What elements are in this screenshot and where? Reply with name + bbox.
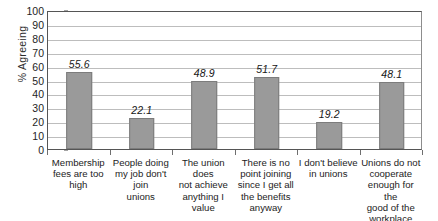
x-axis-tick-mark [360, 150, 361, 155]
x-axis-category-label: Membershipfees are toohigh [47, 157, 110, 191]
bar-chart-figure: % Agreeing 1009080706050403020100 55.622… [0, 0, 438, 221]
y-axis-tick-label: 60 [32, 61, 44, 72]
bar-slot: 48.9 [173, 12, 236, 149]
category-label-line: anyway [236, 202, 297, 213]
category-label-line: not achieve [173, 179, 234, 190]
y-axis-tick-label: 20 [32, 117, 44, 128]
bar [66, 72, 92, 149]
x-axis-category-label: Unions do notcooperateenough for thegood… [360, 157, 423, 221]
y-axis-tick-label: 80 [32, 34, 44, 45]
category-label-line: in unions [298, 168, 359, 179]
bar-slot: 22.1 [111, 12, 174, 149]
x-axis-category-label: I don't believein unions [297, 157, 360, 179]
category-label-line: The union does [173, 157, 234, 179]
category-label-line: high [48, 179, 109, 190]
bar [379, 82, 405, 149]
category-label-line: unions [111, 191, 172, 202]
category-label-line: Unions do not [361, 157, 422, 168]
x-axis-tick-mark [110, 150, 111, 155]
bar-value-label: 22.1 [131, 104, 152, 116]
x-axis-tick-mark [235, 150, 236, 155]
bar [316, 122, 342, 149]
bar-slot: 51.7 [236, 12, 299, 149]
category-label-line: workplace [361, 213, 422, 221]
y-axis-tick-label: 100 [26, 6, 44, 17]
category-label-line: cooperate [361, 168, 422, 179]
y-axis-tick-label: 0 [38, 145, 44, 156]
category-label-line: I don't believe [298, 157, 359, 168]
y-axis-tick-labels: 1009080706050403020100 [20, 11, 44, 150]
category-label-line: anything I value [173, 191, 234, 213]
bar-slot: 48.1 [361, 12, 424, 149]
bar [129, 118, 155, 149]
plot-area: 55.622.148.951.719.248.1 [47, 11, 422, 150]
category-label-line: There is no [236, 157, 297, 168]
bar-value-label: 19.2 [319, 108, 340, 120]
x-axis-tick-mark [422, 150, 423, 155]
bar-value-label: 55.6 [69, 58, 90, 70]
y-axis-tick-label: 90 [32, 20, 44, 31]
x-axis-tick-mark [47, 150, 48, 155]
bar-slot: 55.6 [48, 12, 111, 149]
x-axis-category-label: People doingmy job don't joinunions [110, 157, 173, 202]
category-label-line: People doing [111, 157, 172, 168]
x-axis-category-label: There is nopoint joiningsince I get allt… [235, 157, 298, 213]
x-axis-tick-mark [297, 150, 298, 155]
category-label-line: Membership [48, 157, 109, 168]
category-label-line: the benefits [236, 191, 297, 202]
y-axis-tick-label: 40 [32, 89, 44, 100]
category-label-line: good of the [361, 202, 422, 213]
y-axis-tick-label: 70 [32, 47, 44, 58]
bar-value-label: 48.1 [381, 68, 402, 80]
category-label-line: my job don't join [111, 168, 172, 190]
x-axis-tick-mark [172, 150, 173, 155]
bar [191, 81, 217, 149]
category-label-line: since I get all [236, 179, 297, 190]
bar-slot: 19.2 [298, 12, 361, 149]
y-axis-tick-label: 50 [32, 75, 44, 86]
y-axis-tick-label: 10 [32, 131, 44, 142]
category-label-line: point joining [236, 168, 297, 179]
category-label-line: enough for the [361, 179, 422, 201]
bar [254, 77, 280, 149]
x-axis-category-label: The union doesnot achieveanything I valu… [172, 157, 235, 213]
bar-value-label: 48.9 [194, 67, 215, 79]
bar-value-label: 51.7 [256, 63, 277, 75]
bars-layer: 55.622.148.951.719.248.1 [48, 12, 421, 149]
category-label-line: fees are too [48, 168, 109, 179]
y-axis-tick-label: 30 [32, 103, 44, 114]
